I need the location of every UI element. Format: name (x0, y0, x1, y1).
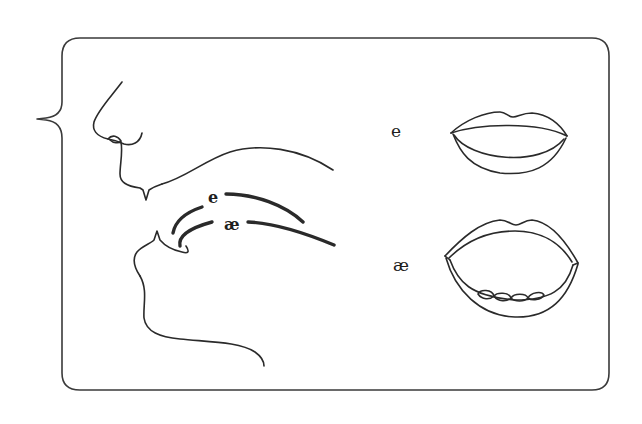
lips-e: e (391, 112, 567, 174)
frame-with-brace (37, 38, 609, 390)
head-profile (94, 82, 333, 200)
upper-lip-and-teeth (120, 142, 162, 200)
chin-and-neck (140, 276, 264, 366)
palate-curve (162, 148, 333, 184)
vowel-articulation-diagram: e æ e æ (0, 0, 642, 424)
lips-e-inner-upper (451, 125, 567, 136)
tongue-line-ae-back (248, 222, 334, 245)
lips-label-e: e (391, 121, 401, 141)
tongue-label-e: e (208, 188, 218, 207)
tongue-positions: e æ (173, 188, 334, 246)
lips-e-outer-lower (453, 134, 566, 174)
lips-label-ae: æ (393, 255, 409, 275)
lower-jaw-profile (134, 231, 264, 366)
lips-ae-outer-lower (446, 258, 578, 317)
lips-ae-inner-lower (450, 260, 573, 300)
lips-ae-outer-upper (445, 220, 578, 263)
lips-e-outer-upper (451, 112, 567, 136)
tongue-line-ae (180, 222, 212, 246)
nose-outline (94, 82, 142, 145)
nostril-loop (108, 136, 121, 143)
lips-ae: æ (393, 220, 578, 317)
tongue-line-e (173, 207, 202, 233)
tongue-label-ae: æ (224, 215, 240, 234)
lips-e-inner-lower (454, 135, 564, 157)
